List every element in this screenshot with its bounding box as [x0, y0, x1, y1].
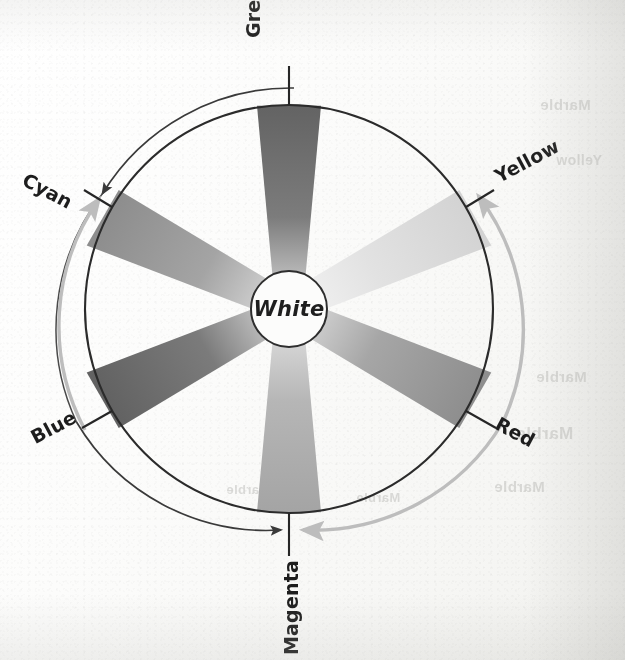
- arc-yellow-up-light: [479, 196, 524, 422]
- tick-yellow: [466, 190, 494, 207]
- arc-blue-to-magenta: [77, 422, 282, 530]
- arc-red-to-magenta-light: [303, 422, 503, 530]
- tick-cyan: [84, 190, 112, 207]
- color-wheel-graphic: [0, 0, 625, 660]
- tick-red: [466, 411, 496, 428]
- figure-page: MarbleYellowMarbleMarbleMarbleMarbleMarb…: [0, 0, 625, 660]
- spoke-label-green: Green: [242, 0, 264, 38]
- arc-cyan-up-light: [59, 199, 99, 430]
- tick-blue: [82, 411, 112, 428]
- spoke-label-magenta: Magenta: [280, 560, 302, 655]
- center-label-white: White: [249, 297, 329, 321]
